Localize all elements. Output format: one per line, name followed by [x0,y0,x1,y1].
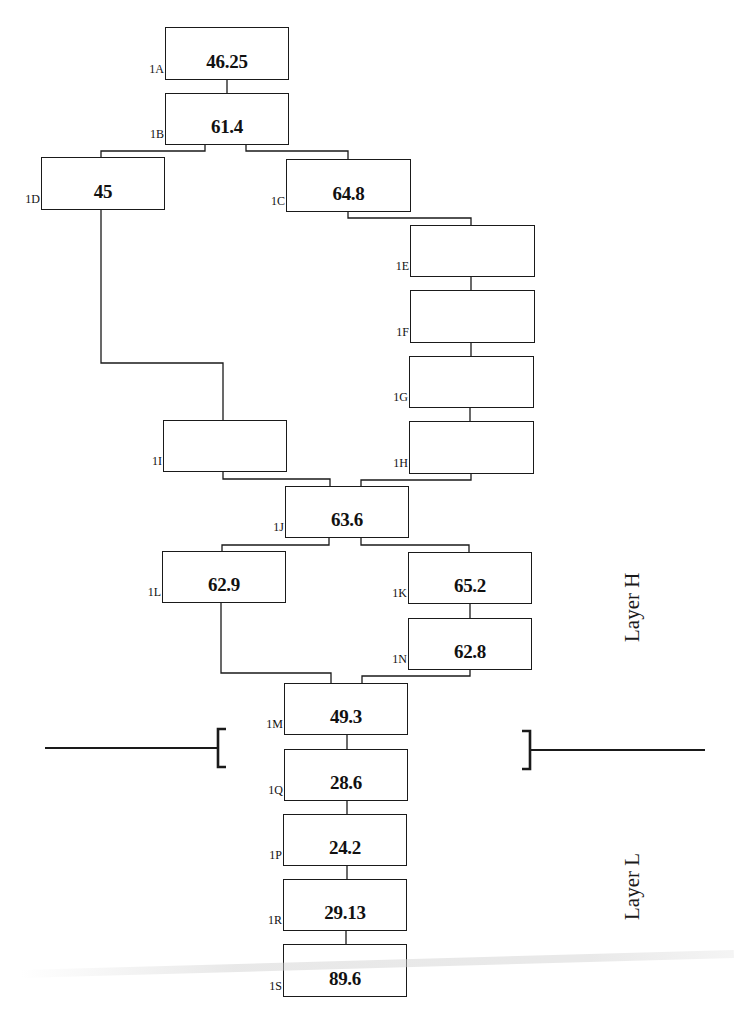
node-1f [410,290,535,343]
connector-1b-1d [101,145,205,157]
flow-diagram: 46.251A61.41B451D64.81C1E1F1G1I1H63.61J6… [0,0,734,1024]
node-label: 1L [131,585,161,600]
node-1h [409,421,534,474]
node-label: 1I [132,454,162,469]
node-label: 1R [252,913,282,928]
node-value: 63.6 [286,509,408,531]
node-value: 45 [42,181,164,203]
layer-l-label: Layer L [620,853,645,920]
connector-1j-1l [222,538,329,551]
layer-divider-left-bracket [218,729,226,767]
node-1g [409,356,534,408]
node-value: 62.9 [163,574,285,596]
connector-1b-1c [246,145,348,159]
node-1r: 29.13 [283,879,407,931]
node-label: 1M [253,717,283,732]
node-1i [163,420,287,472]
connector-1j-1k [361,538,469,552]
node-1m: 49.3 [284,683,408,735]
node-value: 64.8 [287,183,410,205]
node-1d: 45 [41,157,165,210]
node-1a: 46.25 [165,27,289,80]
node-value: 89.6 [284,968,406,990]
connector-1i-1j [223,472,330,486]
node-value: 61.4 [166,116,288,138]
node-label: 1Q [253,783,283,798]
node-1p: 24.2 [283,814,407,866]
connector-1n-1m [362,670,470,683]
node-1e [410,225,535,277]
node-value: 28.6 [285,772,407,794]
node-value: 49.3 [285,706,407,728]
node-1j: 63.6 [285,486,409,538]
node-label: 1K [377,586,407,601]
node-label: 1H [378,456,408,471]
layer-h-label: Layer H [620,573,645,642]
node-1k: 65.2 [408,552,532,604]
node-label: 1G [378,390,408,405]
node-label: 1D [10,192,40,207]
node-label: 1E [379,259,409,274]
node-label: 1J [254,520,284,535]
node-label: 1F [379,325,409,340]
node-value: 24.2 [284,837,406,859]
node-1n: 62.8 [408,618,532,670]
connector-1l-1m [221,603,331,683]
node-value: 46.25 [166,51,288,73]
connector-1h-1j [361,474,471,486]
connector-1c-1e [348,212,471,225]
connector-1d-1i [101,210,223,420]
layer-divider-right-bracket [522,731,530,769]
node-1b: 61.4 [165,93,289,145]
node-1s: 89.6 [283,944,407,997]
node-1c: 64.8 [286,159,411,212]
node-label: 1P [252,848,282,863]
node-label: 1S [252,979,282,994]
node-value: 65.2 [409,575,531,597]
node-label: 1N [377,652,407,667]
node-label: 1B [134,127,164,142]
node-value: 29.13 [284,902,406,924]
node-1q: 28.6 [284,749,408,801]
node-value: 62.8 [409,641,531,663]
node-label: 1A [134,62,164,77]
node-1l: 62.9 [162,551,286,603]
node-label: 1C [255,194,285,209]
